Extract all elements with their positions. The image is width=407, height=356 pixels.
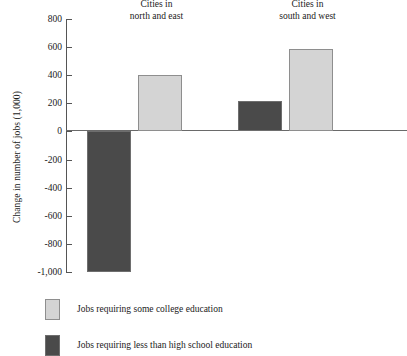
y-axis-tick — [66, 160, 72, 161]
y-axis-tick — [66, 75, 72, 76]
legend-item-less-than-high-school: Jobs requiring less than high school edu… — [45, 334, 252, 356]
legend-swatch-dark-icon — [45, 335, 60, 356]
group-header-south-west: Cities in south and west — [238, 0, 378, 22]
y-axis-tick-label: -200 — [18, 155, 62, 165]
group-header-line2: north and east — [87, 11, 227, 23]
y-axis-tick — [66, 103, 72, 104]
y-axis-tick-label: 200 — [18, 98, 62, 108]
bar-less-than-high-school-group-1 — [238, 101, 282, 132]
y-axis-tick-label: -1,000 — [18, 267, 62, 277]
y-axis-tick-label: 600 — [18, 42, 62, 52]
y-axis-tick-label: 400 — [18, 70, 62, 80]
y-axis-tick — [66, 216, 72, 217]
group-header-north-east: Cities in north and east — [87, 0, 227, 22]
y-axis-tick-label: 800 — [18, 14, 62, 24]
y-axis-tick — [66, 19, 72, 20]
legend-label-some-college: Jobs requiring some college education — [77, 304, 223, 314]
bar-some-college-group-1 — [289, 49, 333, 132]
legend-item-some-college: Jobs requiring some college education — [45, 298, 223, 320]
y-axis-tick — [66, 47, 72, 48]
group-header-line1: Cities in — [141, 0, 173, 9]
legend-swatch-light-icon — [45, 299, 60, 320]
y-axis-tick-label: -600 — [18, 211, 62, 221]
y-axis-tick-label: 0 — [18, 126, 62, 136]
bar-less-than-high-school-group-0 — [87, 131, 131, 272]
legend-label-less-than-high-school: Jobs requiring less than high school edu… — [77, 340, 252, 350]
y-axis-line — [66, 19, 67, 272]
y-axis-tick — [66, 131, 72, 132]
y-axis-tick — [66, 272, 72, 273]
y-axis-tick-label: -800 — [18, 239, 62, 249]
group-header-line2: south and west — [238, 11, 378, 23]
y-axis-tick — [66, 188, 72, 189]
group-header-line1: Cities in — [292, 0, 324, 9]
y-axis-tick — [66, 244, 72, 245]
y-axis-tick-label: -400 — [18, 183, 62, 193]
bar-some-college-group-0 — [138, 75, 182, 131]
